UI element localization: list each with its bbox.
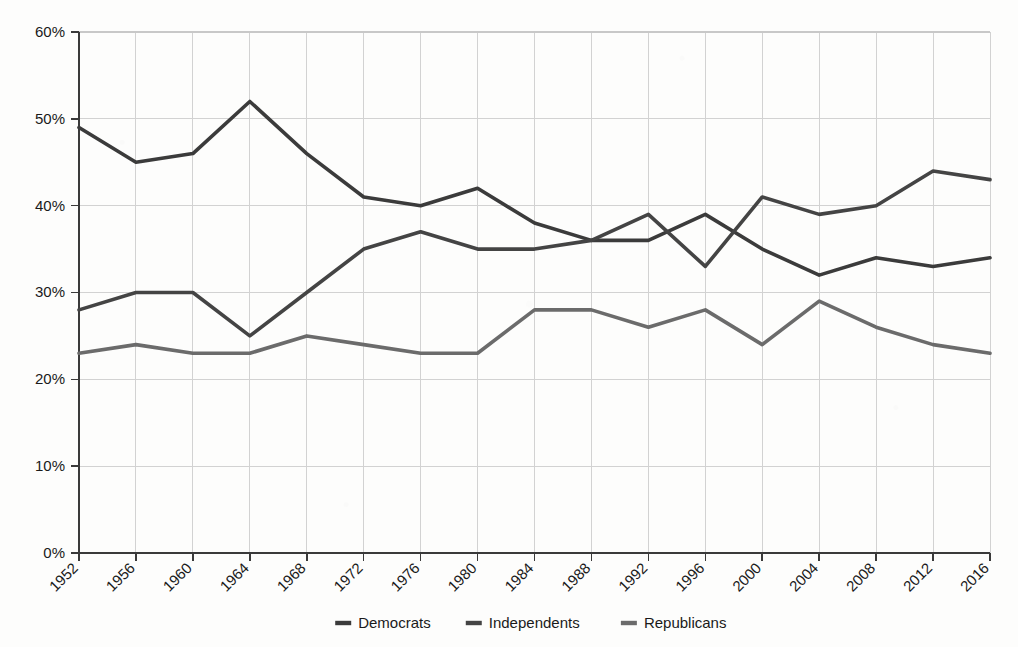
- legend-label: Independents: [489, 614, 580, 631]
- x-tick-label: 1992: [615, 559, 651, 595]
- line-chart: 0%10%20%30%40%50%60% 1952195619601964196…: [0, 0, 1018, 647]
- x-tick-label: 2016: [957, 559, 993, 595]
- x-tick-label: 1964: [216, 559, 252, 595]
- x-tick-labels: 1952195619601964196819721976198019841988…: [46, 559, 993, 595]
- x-tick-label: 2008: [843, 559, 879, 595]
- y-tick-label: 40%: [35, 197, 65, 214]
- y-tick-labels: 0%10%20%30%40%50%60%: [35, 23, 65, 561]
- y-tick-label: 60%: [35, 23, 65, 40]
- x-tick-label: 1968: [273, 559, 309, 595]
- x-tick-label: 1956: [102, 559, 138, 595]
- y-tick-label: 50%: [35, 110, 65, 127]
- legend-label: Republicans: [644, 614, 727, 631]
- y-tick-label: 10%: [35, 457, 65, 474]
- chart-legend: DemocratsIndependentsRepublicans: [335, 614, 726, 631]
- legend-item-republicans[interactable]: Republicans: [621, 614, 727, 631]
- x-axis: [79, 553, 990, 561]
- x-tick-label: 1996: [672, 559, 708, 595]
- legend-label: Democrats: [358, 614, 431, 631]
- y-tick-label: 20%: [35, 370, 65, 387]
- x-tick-label: 2004: [786, 559, 822, 595]
- y-tick-label: 30%: [35, 283, 65, 300]
- x-tick-label: 1988: [558, 559, 594, 595]
- legend-item-democrats[interactable]: Democrats: [335, 614, 431, 631]
- x-tick-label: 1952: [46, 559, 82, 595]
- y-tick-label: 0%: [43, 544, 65, 561]
- x-tick-label: 2012: [900, 559, 936, 595]
- y-axis: [71, 32, 79, 553]
- legend-item-independents[interactable]: Independents: [466, 614, 580, 631]
- chart-canvas: 0%10%20%30%40%50%60% 1952195619601964196…: [0, 0, 1018, 647]
- x-tick-label: 1960: [159, 559, 195, 595]
- x-tick-label: 1972: [330, 559, 366, 595]
- x-tick-label: 1976: [387, 559, 423, 595]
- gridlines: [79, 32, 990, 553]
- x-tick-label: 1980: [444, 559, 480, 595]
- x-tick-label: 2000: [729, 559, 765, 595]
- x-tick-label: 1984: [501, 559, 537, 595]
